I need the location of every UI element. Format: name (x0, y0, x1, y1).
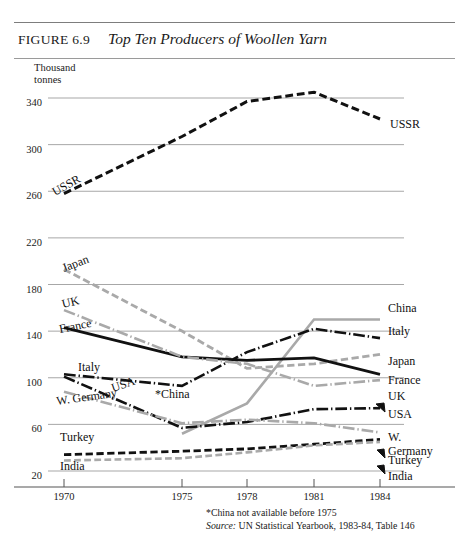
series-label-right: France (388, 373, 421, 387)
series-label-left: Italy (78, 360, 100, 374)
series-line-uk (64, 310, 380, 386)
series-label-right: UK (388, 389, 406, 403)
y-tick-label: 20 (32, 470, 43, 481)
source-note: Source: UN Statistical Yearbook, 1983-84… (206, 520, 415, 533)
figure-container: FIGURE 6.9 Top Ten Producers of Woollen … (0, 0, 469, 559)
series-label-left: UK (60, 293, 81, 311)
x-tick-label: 1970 (54, 491, 75, 502)
series-label-left: Japan (60, 252, 91, 275)
series-label-right: Turkey (388, 453, 422, 467)
source-text: UN Statistical Yearbook, 1983-84, Table … (239, 520, 415, 531)
series-line-ussr (64, 92, 380, 193)
series-label-left: India (60, 459, 85, 473)
series-label-left: *China (155, 387, 190, 401)
label-pointer-arrow-icon (377, 465, 385, 474)
series-label-right: China (388, 301, 417, 315)
series-label-right: Italy (388, 324, 410, 338)
series-line-turkey (64, 440, 380, 455)
x-tick-label: 1978 (237, 491, 258, 502)
y-tick-label: 340 (26, 97, 42, 108)
x-tick-label: 1975 (172, 491, 193, 502)
series-label-left: USSR (50, 172, 83, 199)
y-tick-label: 180 (26, 284, 42, 295)
y-tick-label: 260 (26, 190, 42, 201)
series-label-right: W. (388, 430, 401, 444)
y-tick-label: 60 (32, 423, 43, 434)
y-tick-label: 300 (26, 144, 42, 155)
series-label-right: USSR (390, 117, 420, 131)
footnote-china: *China not available before 1975 (206, 507, 337, 520)
label-pointer-arrow-icon (377, 449, 385, 458)
series-line-india (64, 442, 380, 461)
series-label-right: USA (388, 407, 412, 421)
series-line-france (64, 328, 380, 375)
x-tick-label: 1984 (370, 491, 392, 502)
series-label-right: India (388, 469, 413, 483)
y-tick-label: 140 (26, 330, 42, 341)
y-tick-label: 220 (26, 237, 42, 248)
x-tick-label: 1981 (304, 491, 325, 502)
y-tick-label: 100 (26, 377, 42, 388)
source-prefix: Source: (206, 520, 236, 531)
series-label-left: Turkey (60, 430, 94, 444)
line-chart: 3403002602201801401006020197019751978198… (0, 0, 469, 559)
series-label-right: Japan (388, 354, 415, 368)
